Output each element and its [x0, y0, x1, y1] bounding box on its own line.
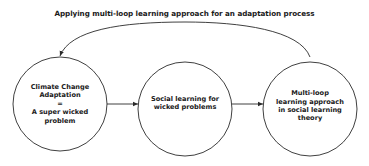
node-line: theory — [298, 114, 322, 122]
node-line: Adaptation — [39, 91, 80, 99]
node-line: in social learning — [278, 106, 342, 114]
node-line: Multi-loop — [291, 89, 329, 97]
node-line: wicked problems — [154, 103, 217, 111]
feedback-arc — [60, 22, 310, 57]
node-line: problem — [45, 117, 76, 125]
node-line: Social learning for — [151, 95, 219, 103]
diagram-title: Applying multi-loop learning approach fo… — [0, 9, 369, 18]
node-line: learning approach — [276, 98, 344, 106]
node-line: Climate Change — [31, 83, 89, 91]
node-line: = — [57, 100, 63, 108]
node-label-climate-change-adaptation: Climate Change Adaptation = A super wick… — [18, 80, 102, 128]
node-label-multi-loop-learning: Multi-loop learning approach in social l… — [268, 88, 352, 124]
node-label-social-learning: Social learning for wicked problems — [143, 93, 227, 113]
node-line: A super wicked — [32, 108, 88, 116]
